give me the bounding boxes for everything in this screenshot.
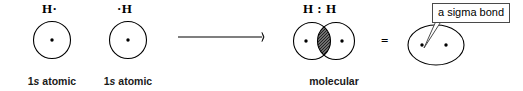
right-atom-caption-line1: 1s atomic — [84, 75, 172, 88]
right-orbital-circle-svg — [108, 20, 148, 60]
molecule-caption-line1: molecular — [290, 75, 378, 88]
callout-tail — [424, 20, 442, 48]
callout-pointer — [420, 18, 460, 52]
reaction-arrow-svg — [178, 28, 268, 46]
sigma-bond-callout: a sigma bond — [432, 3, 510, 23]
right-atom-caption: 1s atomic orbital — [84, 62, 172, 91]
left-atom-caption: 1s atomic orbital — [8, 62, 96, 91]
reaction-arrow — [178, 28, 268, 46]
callout-pointer-svg — [420, 18, 460, 52]
right-atom-orbital — [108, 20, 148, 60]
molecular-orbital-electron-dot-left — [304, 39, 307, 42]
left-orbital-circle-svg — [32, 20, 72, 60]
right-orbital-electron-dot — [126, 38, 129, 41]
equals-sign: = — [381, 33, 388, 49]
molecular-orbital-electron-dot-right — [340, 39, 343, 42]
molecular-orbital — [292, 20, 374, 62]
left-orbital-electron-dot — [50, 38, 53, 41]
molecule-caption: molecular orbital — [290, 62, 378, 91]
sigma-bond-formation-diagram: H· 1s atomic orbital ·H 1s atomic orbita… — [0, 0, 523, 91]
right-atom-symbol: ·H — [117, 2, 132, 15]
right-caption-suffix: atomic — [115, 75, 152, 87]
left-caption-suffix: atomic — [39, 75, 76, 87]
left-atom-symbol: H· — [42, 2, 57, 15]
reaction-arrow-head — [262, 33, 264, 42]
molecular-orbital-svg — [292, 20, 374, 62]
left-atom-orbital — [32, 20, 72, 60]
molecule-symbol: H : H — [303, 2, 337, 15]
left-atom-caption-line1: 1s atomic — [8, 75, 96, 88]
